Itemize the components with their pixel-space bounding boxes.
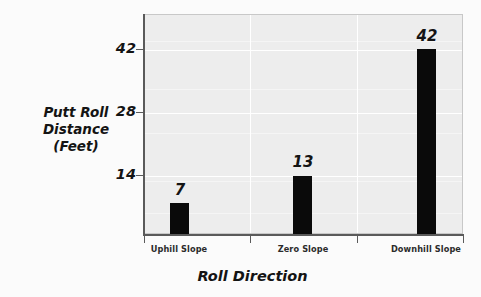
x-tick-1: [250, 236, 251, 243]
y-axis-title-line-3: (Feet): [24, 138, 128, 155]
x-tick-2: [357, 236, 358, 243]
y-axis-title-line-2: Distance: [24, 121, 128, 138]
x-axis-line: [143, 234, 464, 236]
x-tick-0: [144, 236, 145, 243]
bar-value-uphill-slope: 7: [150, 181, 210, 199]
bar-uphill-slope[interactable]: [170, 203, 189, 235]
y-tick-label-42: 42: [96, 40, 136, 56]
y-axis-title: Putt Roll Distance (Feet): [24, 104, 128, 155]
gridline-y-42: [144, 50, 462, 51]
bar-zero-slope[interactable]: [293, 176, 312, 235]
bar-downhill-slope[interactable]: [417, 49, 436, 234]
gridline-y-28: [144, 113, 462, 114]
gridline-x-2: [357, 15, 358, 233]
x-category-label-downhill-slope: Downhill Slope: [386, 244, 466, 254]
gridline-x-1: [250, 15, 251, 233]
x-category-label-zero-slope: Zero Slope: [263, 244, 343, 254]
y-tick-label-14: 14: [96, 166, 136, 182]
bar-value-zero-slope: 13: [273, 153, 333, 171]
y-tick-42: [136, 49, 145, 50]
x-category-label-uphill-slope: Uphill Slope: [139, 244, 219, 254]
y-axis-title-line-1: Putt Roll: [24, 104, 128, 121]
chart-canvas: 42 28 14 Putt Roll Distance (Feet) 7 13 …: [0, 0, 481, 297]
x-axis-title: Roll Direction: [0, 268, 481, 284]
bar-value-downhill-slope: 42: [397, 27, 457, 45]
x-tick-3: [463, 236, 464, 243]
y-tick-28: [136, 112, 145, 113]
y-tick-14: [136, 175, 145, 176]
y-axis-line: [143, 14, 145, 235]
